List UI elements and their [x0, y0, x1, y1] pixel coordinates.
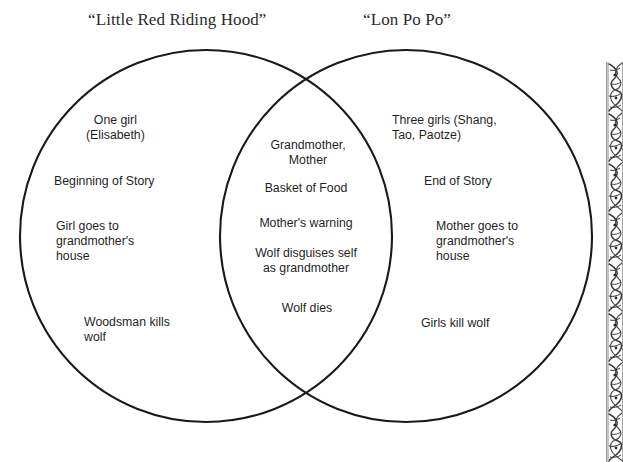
right-circle[interactable] [220, 50, 592, 422]
left-region-item: Beginning of Story [54, 174, 155, 189]
right-region-item: End of Story [424, 174, 492, 189]
left-region-item: Woodsman kills wolf [84, 315, 170, 345]
right-region-item: Mother goes to grandmother's house [436, 219, 518, 265]
intersection-region-item: Basket of Food [251, 181, 361, 196]
intersection-region-item: Wolf disguises self as grandmother [244, 246, 368, 276]
left-region-item: One girl (Elisabeth) [86, 113, 145, 143]
venn-diagram-page: “Little Red Riding Hood” “Lon Po Po” One… [0, 0, 623, 462]
left-region-item: Girl goes to grandmother's house [56, 219, 134, 265]
right-region-item: Three girls (Shang, Tao, Paotze) [392, 113, 497, 143]
right-region-item: Girls kill wolf [421, 316, 489, 331]
ornament-icon [607, 62, 623, 462]
intersection-region-item: Grandmother, Mother [253, 138, 363, 168]
intersection-region-item: Wolf dies [252, 301, 362, 316]
intersection-region-item: Mother's warning [248, 216, 364, 231]
decorative-border-strip [606, 62, 623, 462]
